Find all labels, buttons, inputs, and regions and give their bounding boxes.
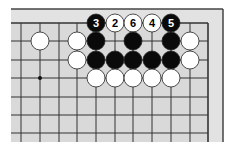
white-stone-move-2: 2: [106, 14, 124, 32]
black-stone-move-5: 5: [162, 14, 180, 32]
white-stone: [106, 69, 124, 87]
hoshi-points: [38, 76, 42, 80]
black-stone: [87, 51, 105, 69]
black-stone: [106, 51, 124, 69]
hoshi-point: [38, 76, 42, 80]
white-stone-move-4: 4: [143, 14, 161, 32]
white-stone: [143, 69, 161, 87]
black-stone-move-3: 3: [87, 14, 105, 32]
white-stone: [87, 69, 105, 87]
board-right-margin: [208, 9, 223, 142]
black-stone: [124, 51, 142, 69]
white-stone: [181, 32, 199, 50]
move-number: 3: [93, 17, 99, 29]
move-number: 4: [149, 17, 156, 29]
go-board-diagram: 32645: [0, 0, 229, 153]
white-stone: [31, 32, 49, 50]
move-number: 6: [130, 17, 136, 29]
white-stone: [68, 32, 86, 50]
black-stone: [162, 51, 180, 69]
move-number: 5: [168, 17, 174, 29]
black-stone: [143, 51, 161, 69]
white-stone: [124, 69, 142, 87]
black-stone: [162, 32, 180, 50]
white-stone-move-6: 6: [124, 14, 142, 32]
white-stone: [162, 69, 180, 87]
black-stone: [87, 32, 105, 50]
black-stone: [124, 32, 142, 50]
white-stone: [68, 51, 86, 69]
move-number: 2: [112, 17, 118, 29]
white-stone: [181, 51, 199, 69]
